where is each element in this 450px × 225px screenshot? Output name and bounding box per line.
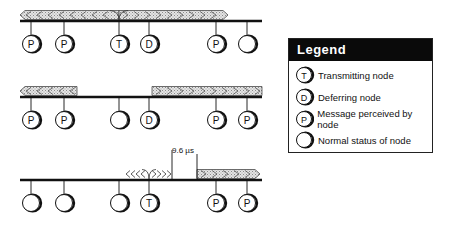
node-normal	[111, 112, 130, 129]
signal-band	[152, 87, 262, 96]
node-label: D	[301, 93, 308, 103]
node-d: D	[297, 90, 314, 105]
node-label: T	[146, 198, 152, 209]
legend-label: Message perceived by node	[317, 108, 432, 130]
signal-chevron	[152, 171, 156, 178]
node-d: D	[141, 36, 160, 53]
node-p: P	[208, 195, 227, 212]
legend-label: Transmitting node	[318, 70, 394, 81]
node-label: P	[61, 115, 68, 126]
node-circle	[239, 36, 256, 53]
node-normal	[111, 195, 130, 212]
node-p: P	[208, 112, 227, 129]
node-label: P	[244, 198, 251, 209]
node-normal	[23, 195, 42, 212]
node-t: T	[111, 36, 130, 53]
node-label: T	[116, 39, 122, 50]
signal-chevron	[136, 171, 140, 178]
node-t: T	[297, 68, 314, 83]
signal-chevron	[167, 171, 171, 178]
node-normal	[56, 195, 75, 212]
node-label: P	[301, 115, 307, 125]
node-circle	[297, 133, 312, 148]
signal-right	[152, 87, 262, 96]
deferring-node-icon: D	[295, 87, 315, 107]
node-label: P	[61, 39, 68, 50]
node-p: P	[208, 36, 227, 53]
node-label: P	[213, 115, 220, 126]
node-p: P	[23, 112, 42, 129]
gap-label: 9.6 µs	[172, 146, 194, 155]
bus-row-1: PPTDP	[20, 21, 262, 53]
node-normal	[297, 133, 314, 148]
node-label: P	[28, 39, 35, 50]
signal-right	[197, 170, 260, 179]
legend-item-normal: Normal status of node	[295, 130, 411, 150]
node-circle	[111, 195, 128, 212]
node-p: P	[239, 112, 258, 129]
legend-item-perceived: P Message perceived by node	[295, 109, 432, 129]
node-p: P	[56, 112, 75, 129]
signal-chevron	[131, 171, 135, 178]
node-p: P	[297, 112, 314, 127]
transmitting-node-icon: T	[295, 65, 315, 85]
legend-label: Deferring node	[318, 92, 381, 103]
signal-right	[119, 11, 228, 20]
legend-item-transmitting: T Transmitting node	[295, 65, 394, 85]
legend-item-deferring: D Deferring node	[295, 87, 381, 107]
perceived-node-icon: P	[295, 109, 314, 129]
signal-chevron	[157, 171, 161, 178]
bus-row-2: PPDPP	[20, 97, 262, 129]
node-label: P	[213, 198, 220, 209]
signal-chevron	[162, 171, 166, 178]
signal-origin-curve	[142, 170, 149, 180]
node-label: D	[145, 39, 152, 50]
signal-chevron	[126, 171, 130, 178]
node-p: P	[56, 36, 75, 53]
signal-left	[20, 11, 119, 20]
signal-new-transmission	[126, 170, 171, 180]
signal-left	[20, 87, 77, 96]
node-p: P	[23, 36, 42, 53]
legend-label: Normal status of node	[318, 135, 411, 146]
node-label: P	[28, 115, 35, 126]
node-label: T	[301, 71, 307, 81]
legend-title: Legend	[289, 39, 432, 61]
bus-row-3: TPP	[20, 180, 262, 212]
node-circle	[56, 195, 73, 212]
node-d: D	[141, 112, 160, 129]
node-p: P	[239, 195, 258, 212]
node-label: P	[213, 39, 220, 50]
node-circle	[111, 112, 128, 129]
node-label: D	[145, 115, 152, 126]
node-t: T	[141, 195, 160, 212]
node-label: P	[244, 115, 251, 126]
signal-chevron	[141, 171, 145, 178]
node-circle	[23, 195, 40, 212]
legend: Legend T Transmitting node D Deferring n…	[288, 38, 433, 153]
normal-node-icon	[295, 130, 315, 150]
node-normal	[239, 36, 258, 53]
